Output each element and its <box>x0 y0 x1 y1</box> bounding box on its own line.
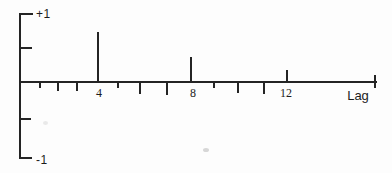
acf-stem-lag-9 <box>213 83 215 88</box>
acf-stem-lag-3 <box>76 83 78 91</box>
acf-stem-lag-12 <box>286 70 288 81</box>
acf-stem-lag-5 <box>117 83 119 88</box>
acf-stem-lag-2 <box>57 83 59 91</box>
scan-speck <box>43 121 48 125</box>
y-axis-tick-3 <box>19 157 32 159</box>
scan-speck <box>203 148 209 152</box>
x-tick-label-8: 8 <box>190 87 196 99</box>
x-axis-end-tick <box>374 75 376 88</box>
acf-stem-lag-8 <box>190 57 192 81</box>
acf-stem-lag-7 <box>166 83 168 95</box>
acf-stem-lag-4 <box>97 32 99 81</box>
x-axis-line <box>19 81 377 83</box>
acf-stem-lag-11 <box>263 83 265 94</box>
acf-stem-lag-10 <box>237 83 239 93</box>
acf-stem-lag-6 <box>139 83 141 94</box>
y-axis-tick-0 <box>19 13 33 15</box>
x-axis-title: Lag <box>347 89 369 102</box>
x-tick-label-4: 4 <box>96 87 102 99</box>
x-tick-label-12: 12 <box>280 87 292 99</box>
y-axis-label-minus1: -1 <box>36 154 48 166</box>
y-axis-label-plus1: +1 <box>36 8 51 20</box>
y-axis-line <box>19 13 21 159</box>
y-axis-tick-1 <box>19 47 32 49</box>
y-axis-tick-2 <box>19 118 31 120</box>
acf-correlogram-figure: +1 -1 4 8 12 Lag <box>0 0 392 173</box>
acf-stem-lag-1 <box>39 83 41 88</box>
